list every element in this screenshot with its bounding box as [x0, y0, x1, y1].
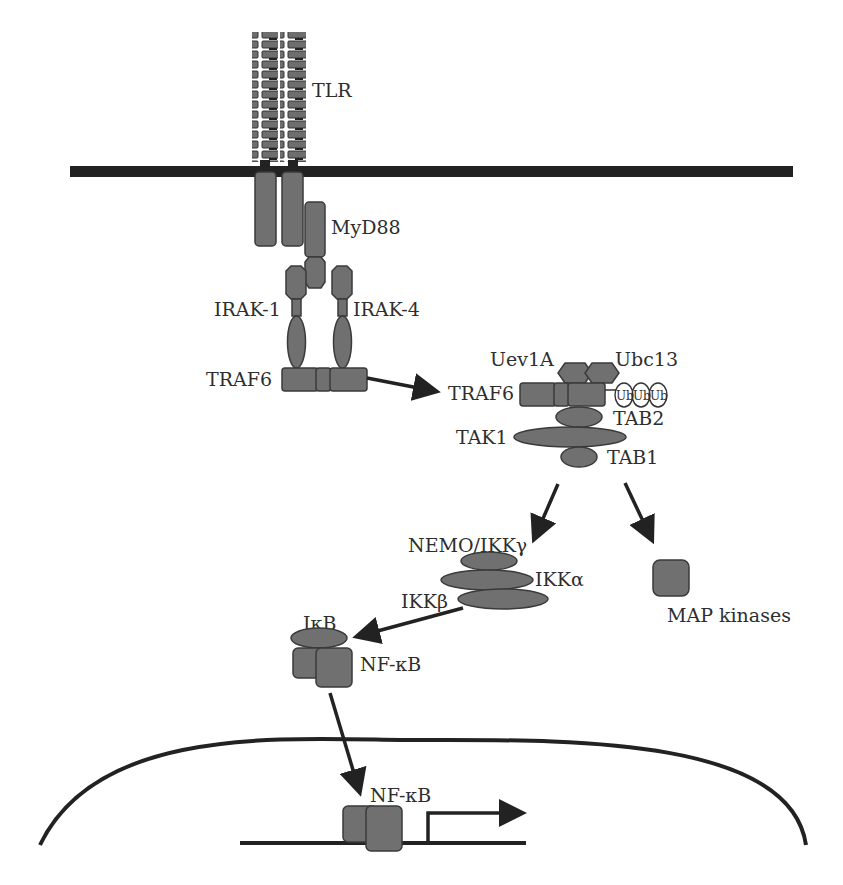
ikk-alpha — [441, 570, 533, 590]
arrow-ikkb-to-ikb — [359, 608, 463, 636]
irak4-linker — [338, 299, 347, 316]
map-kinases-label: MAP kinases — [667, 604, 791, 626]
arrow-tak1-to-ikk — [535, 484, 558, 537]
ub-label-1: Ub — [616, 389, 634, 403]
nfkb-p65-cyto — [316, 648, 352, 687]
irak1-death-domain — [286, 266, 306, 299]
traf6-ubiquitin-complex — [520, 383, 605, 406]
ubc13-label: Ubc13 — [615, 348, 678, 370]
ubc13 — [585, 363, 619, 383]
irak4-kinase-domain — [334, 316, 352, 368]
map-kinases — [653, 560, 689, 596]
ub-label-2: Ub — [633, 389, 651, 403]
arrow-tak1-to-map-kinases — [625, 483, 651, 538]
tlr-tir-domain-right — [282, 172, 303, 246]
ikk-alpha-label: IKKα — [535, 568, 584, 590]
pathway-diagram: TLR MyD88 IRAK-1 IRAK-4 TRAF6 Uev1A Ubc1… — [0, 0, 843, 885]
myd88-death-domain — [305, 257, 325, 288]
nfkb-nucleus-label: NF-κB — [370, 784, 431, 806]
uev1a-label: Uev1A — [490, 348, 554, 370]
plasma-membrane — [70, 166, 793, 177]
ikb — [291, 628, 347, 648]
ikk-beta-label: IKKβ — [401, 590, 448, 612]
tak1 — [514, 427, 626, 447]
tlr-tir-domain-left — [255, 172, 276, 246]
nfkb-cyto-label: NF-κB — [360, 653, 421, 675]
arrow-nfkb-to-nucleus — [330, 693, 359, 790]
tab2-label: TAB2 — [613, 407, 664, 429]
irak4-death-domain — [332, 266, 352, 299]
irak1-kinase-domain — [288, 316, 306, 368]
traf6-left-label: TRAF6 — [206, 368, 272, 390]
traf6-receptor-complex — [282, 368, 367, 391]
tab1 — [561, 447, 597, 467]
nemo-ikk-gamma — [461, 552, 517, 570]
ub-label-3: Ub — [650, 389, 668, 403]
tab2 — [556, 407, 602, 427]
traf6-right-label: TRAF6 — [448, 382, 514, 404]
arrow-traf6-to-traf6 — [367, 378, 434, 391]
irak1-linker — [292, 299, 301, 316]
tak1-label: TAK1 — [456, 426, 508, 448]
tlr-label: TLR — [312, 79, 352, 101]
irak1-label: IRAK-1 — [214, 298, 281, 320]
myd88 — [305, 202, 325, 257]
ikk-beta — [458, 589, 548, 609]
tlr-receptor — [252, 32, 306, 168]
nfkb-p65-nucleus — [366, 806, 402, 851]
transcription-start-arrow — [428, 813, 520, 843]
nemo-label: NEMO/IKKγ — [408, 534, 527, 556]
irak4-label: IRAK-4 — [353, 298, 420, 320]
tab1-label: TAB1 — [607, 446, 658, 468]
myd88-label: MyD88 — [331, 216, 401, 238]
